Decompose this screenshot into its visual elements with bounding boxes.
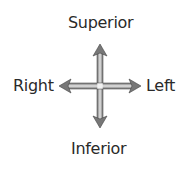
four-way-arrow-icon <box>0 0 180 170</box>
